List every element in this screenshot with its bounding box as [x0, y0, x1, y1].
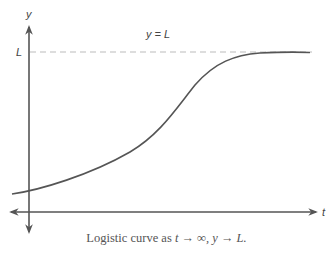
- caption-math: t → ∞, y → L.: [175, 231, 247, 245]
- x-axis-label: t: [322, 206, 326, 218]
- caption-text: Logistic curve as: [86, 231, 175, 245]
- l-label: L: [16, 46, 22, 58]
- logistic-curve: [12, 52, 310, 194]
- asymptote-label: y = L: [145, 28, 170, 40]
- chart-caption: Logistic curve as t → ∞, y → L.: [0, 231, 333, 246]
- logistic-chart: y L y = L t: [0, 0, 333, 254]
- y-axis-label: y: [25, 8, 33, 20]
